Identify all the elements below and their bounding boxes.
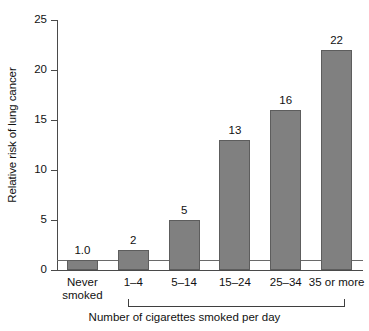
bar [219,140,250,270]
bar-value-label: 1.0 [57,245,107,257]
bar [321,50,352,270]
bar [67,260,98,270]
bar-value-label: 2 [108,235,158,247]
x-axis-title: Number of cigarettes smoked per day [0,311,369,323]
y-tick-label: 25 [7,14,47,26]
bar-chart-figure: Relative risk of lung cancer 0510152025 … [0,0,369,331]
y-tick-label: 5 [7,214,47,226]
y-tick-label: 10 [7,164,47,176]
y-axis-title: Relative risk of lung cancer [0,0,24,270]
y-tick-label: 20 [7,64,47,76]
y-tick-label: 15 [7,114,47,126]
bar-value-label: 22 [312,35,362,47]
x-category-label: 35 or more [305,276,369,289]
bar-value-label: 5 [159,205,209,217]
bar-value-label: 16 [261,95,311,107]
bar [118,250,149,270]
y-tick-label: 0 [7,264,47,276]
x-axis-line [57,270,363,271]
y-axis-title-text: Relative risk of lung cancer [6,67,18,202]
plot-area [57,20,362,270]
bar [270,110,301,270]
y-tick-mark [51,270,57,271]
x-axis-bracket [128,299,345,307]
bar-value-label: 13 [210,125,260,137]
bar [169,220,200,270]
